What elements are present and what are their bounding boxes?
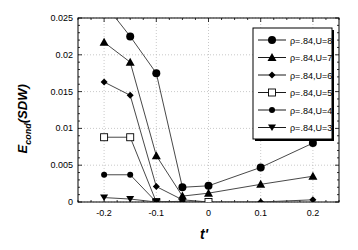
y-axis-label: Econd(SDW)	[15, 69, 33, 169]
x-tick-label: 0.2	[307, 208, 320, 218]
x-tick-label: -0.2	[96, 208, 112, 218]
legend-label: ρ=.84,U=5	[290, 88, 332, 98]
legend-label: ρ=.84,U=3	[290, 123, 332, 133]
y-tick-label: 0.02	[55, 50, 73, 60]
legend-label: ρ=.84,U=6	[290, 71, 332, 81]
y-tick-label: 0.01	[55, 123, 73, 133]
legend-label: ρ=.84,U=4	[290, 106, 332, 116]
legend: ρ=.84,U=8ρ=.84,U=7ρ=.84,U=6ρ=.84,U=5ρ=.8…	[253, 28, 334, 141]
legend-label: ρ=.84,U=7	[290, 53, 332, 63]
y-tick-label: 0.015	[50, 87, 73, 97]
x-tick-label: 0.1	[254, 208, 267, 218]
line-chart: -0.2-0.100.10.200.0050.010.0150.020.025ρ…	[0, 0, 358, 250]
y-tick-label: 0	[68, 197, 73, 207]
x-tick-label: -0.1	[149, 208, 165, 218]
y-tick-label: 0.025	[50, 13, 73, 23]
legend-label: ρ=.84,U=8	[290, 36, 332, 46]
x-axis-label: t'	[200, 226, 208, 242]
x-tick-label: 0	[206, 208, 211, 218]
y-tick-label: 0.005	[50, 160, 73, 170]
